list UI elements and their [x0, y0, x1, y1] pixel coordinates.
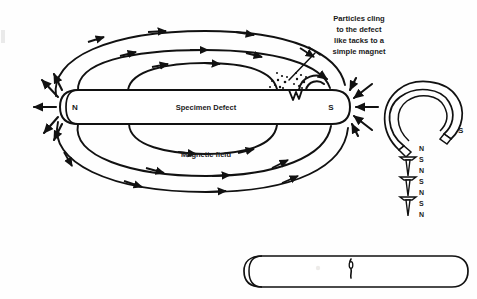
- magnetic-particle-diagram: N S Specimen Defect Magnetic field Parti…: [0, 0, 477, 299]
- north-pole-flux-arrows: [34, 74, 62, 140]
- upper-field-lines: [56, 31, 345, 96]
- tack-1: [400, 157, 416, 176]
- clinging-particles: [269, 72, 307, 89]
- tack-pole-label-1: N: [419, 145, 424, 152]
- tack-pole-label-3: N: [419, 167, 424, 174]
- horseshoe-north-leg-tip: [399, 146, 411, 157]
- callout-line-2: to the defect: [336, 25, 382, 34]
- scan-artifact-left: [1, 30, 5, 43]
- tack-pole-label-6: S: [419, 200, 424, 207]
- plain-cylinder-body: [244, 256, 468, 287]
- specimen-body-label: Specimen Defect: [176, 103, 237, 112]
- figure-canvas: N S Specimen Defect Magnetic field Parti…: [0, 0, 477, 299]
- callout-line-3: like tacks to a: [334, 36, 385, 45]
- field-arc-upper-inner: [128, 63, 277, 90]
- tack-chain: [400, 157, 416, 216]
- pole-label-south: S: [328, 103, 334, 112]
- tack-pole-label-7: N: [419, 211, 424, 218]
- callout-line-4: simple magnet: [332, 47, 386, 56]
- pole-label-north: N: [72, 103, 78, 112]
- tack-3: [400, 197, 416, 216]
- callout-line-1: Particles cling: [333, 14, 385, 23]
- field-arc-upper-mid: [78, 50, 330, 91]
- particles-callout: Particles cling to the defect like tacks…: [332, 14, 386, 56]
- plain-cylinder-crack-mouth: [349, 262, 353, 269]
- horseshoe-magnet: S: [385, 82, 464, 157]
- tack-chain-pole-labels: N S N S N S N: [419, 145, 424, 218]
- horseshoe-pole-label-s: S: [458, 126, 464, 135]
- tack-2: [400, 177, 416, 196]
- south-pole-flux-arrows: [350, 78, 378, 136]
- scan-speck-1: [316, 266, 320, 270]
- magnetic-field-label: Magnetic field: [181, 150, 231, 159]
- horseshoe-inner-outline: [398, 96, 447, 141]
- tack-pole-label-5: N: [419, 189, 424, 196]
- upper-field-arrowheads: [88, 31, 314, 67]
- tack-pole-label-2: S: [419, 156, 424, 163]
- plain-cylinder-specimen: [244, 256, 468, 287]
- tack-pole-label-4: S: [419, 178, 424, 185]
